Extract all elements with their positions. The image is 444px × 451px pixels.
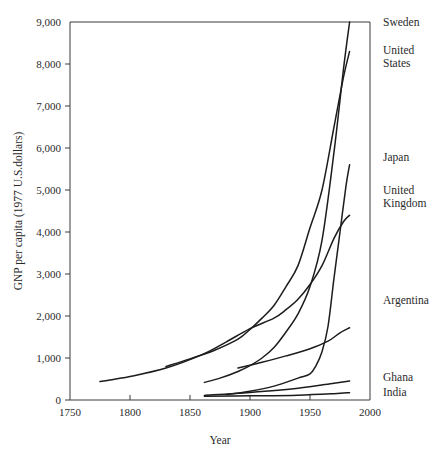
y-tick-label: 4,000 — [36, 226, 61, 238]
series-label-line: United — [383, 44, 415, 56]
x-tick-label: 1750 — [59, 406, 82, 418]
y-tick-label: 9,000 — [36, 16, 61, 28]
series-label-line: Argentina — [383, 294, 429, 307]
x-axis-title: Year — [209, 434, 230, 446]
series-label-japan: Japan — [383, 151, 409, 164]
tick-marks-group — [65, 64, 310, 400]
series-lines-group — [100, 22, 350, 396]
x-tick-label: 2000 — [359, 406, 382, 418]
series-label-line: Ghana — [383, 371, 413, 383]
series-label-line: Sweden — [383, 16, 420, 28]
y-tick-label: 8,000 — [36, 58, 61, 70]
series-label-line: United — [383, 184, 415, 196]
y-axis-title: GNP per capita (1977 U.S.dollars) — [12, 132, 25, 291]
series-label-argentina: Argentina — [383, 294, 429, 307]
series-line-japan — [226, 165, 350, 395]
series-label-line: States — [383, 57, 411, 69]
series-labels-group: SwedenUnitedStatesJapanUnitedKingdomArge… — [383, 16, 429, 398]
series-label-ghana: Ghana — [383, 371, 413, 383]
x-tick-label: 1950 — [299, 406, 322, 418]
y-tick-label: 1,000 — [36, 352, 61, 364]
series-label-united-states: UnitedStates — [383, 44, 415, 69]
y-axis-tick-labels: 01,0002,0003,0004,0005,0006,0007,0008,00… — [36, 16, 61, 406]
series-label-india: India — [383, 386, 407, 398]
x-axis-tick-labels: 175018001850190019502000 — [59, 406, 382, 418]
y-tick-label: 6,000 — [36, 142, 61, 154]
series-label-sweden: Sweden — [383, 16, 420, 28]
series-line-united-states — [166, 51, 350, 366]
x-tick-label: 1900 — [239, 406, 262, 418]
series-line-ghana — [204, 381, 349, 395]
series-label-united-kingdom: UnitedKingdom — [383, 184, 427, 210]
gnp-per-capita-line-chart: 01,0002,0003,0004,0005,0006,0007,0008,00… — [0, 0, 444, 451]
series-label-line: Japan — [383, 151, 409, 164]
chart-page: 01,0002,0003,0004,0005,0006,0007,0008,00… — [0, 0, 444, 451]
y-tick-label: 7,000 — [36, 100, 61, 112]
series-label-line: Kingdom — [383, 197, 427, 210]
y-tick-label: 3,000 — [36, 268, 61, 280]
y-tick-label: 5,000 — [36, 184, 61, 196]
x-tick-label: 1800 — [119, 406, 142, 418]
series-label-line: India — [383, 386, 407, 398]
x-tick-label: 1850 — [179, 406, 202, 418]
series-line-united-kingdom — [100, 215, 350, 381]
y-tick-label: 0 — [56, 394, 62, 406]
y-tick-label: 2,000 — [36, 310, 61, 322]
